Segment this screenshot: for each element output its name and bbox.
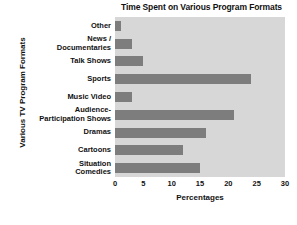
x-tick-label: 15 — [188, 179, 212, 188]
y-tick-label: Talk Shows — [18, 57, 111, 66]
x-tick-label: 30 — [273, 179, 297, 188]
y-tick-label: Music Video — [18, 93, 111, 102]
chart-title: Time Spent on Various Program Formats — [108, 2, 295, 12]
bar — [115, 39, 132, 49]
y-tick-label-line: Documentaries — [18, 44, 111, 53]
x-tick-label: 25 — [245, 179, 269, 188]
x-tick-label: 5 — [131, 179, 155, 188]
y-tick-label: Dramas — [18, 128, 111, 137]
y-tick-label-line: Music Video — [18, 93, 111, 102]
bar — [115, 163, 200, 173]
y-tick-label: Other — [18, 22, 111, 31]
x-tick-label: 20 — [216, 179, 240, 188]
y-tick-label-line: Sports — [18, 75, 111, 84]
y-tick-label: Sports — [18, 75, 111, 84]
x-tick-label: 10 — [160, 179, 184, 188]
y-tick-label: Cartoons — [18, 146, 111, 155]
bar — [115, 128, 206, 138]
plot-area — [115, 17, 285, 177]
bar — [115, 21, 121, 31]
y-tick-label-line: Cartoons — [18, 146, 111, 155]
y-tick-label: Audience-Participation Shows — [18, 106, 111, 123]
bar — [115, 145, 183, 155]
y-tick-label: SituationComedies — [18, 160, 111, 177]
y-tick-label-line: Other — [18, 22, 111, 31]
bar — [115, 110, 234, 120]
x-tick-label: 0 — [103, 179, 127, 188]
y-tick-label-line: Talk Shows — [18, 57, 111, 66]
bar-chart-figure: Time Spent on Various Program Formats Va… — [0, 0, 297, 225]
y-tick-label-line: Comedies — [18, 168, 111, 177]
y-axis-tick-labels: OtherNews /DocumentariesTalk ShowsSports… — [18, 17, 111, 177]
x-axis-title: Percentages — [115, 193, 285, 202]
y-tick-label-line: Participation Shows — [18, 115, 111, 124]
bar — [115, 56, 143, 66]
y-tick-label-line: Dramas — [18, 128, 111, 137]
bar — [115, 74, 251, 84]
x-axis-tick-labels: 051015202530 — [0, 179, 297, 191]
y-tick-label: News /Documentaries — [18, 35, 111, 52]
bar — [115, 92, 132, 102]
